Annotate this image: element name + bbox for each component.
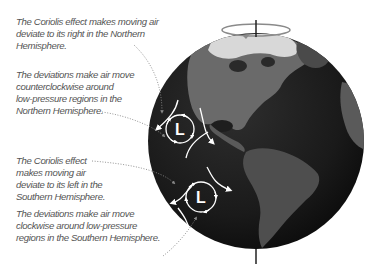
caption-line: The Coriolis effect	[16, 155, 105, 167]
caption-line: makes moving air	[16, 167, 105, 179]
caption-line: deviate to its left in the	[16, 179, 105, 191]
caption-line: The Coriolis effect makes moving air	[16, 16, 159, 28]
north-low-label: L	[175, 121, 185, 138]
caption-north-deviation: The deviations make air move countercloc…	[16, 69, 134, 117]
caption-line: counterclockwise around	[16, 81, 134, 93]
caption-south-deviation: The deviations make air move clockwise a…	[16, 208, 160, 244]
caption-line: The deviations make air move	[16, 208, 160, 220]
caption-line: Southern Hemisphere.	[16, 191, 105, 203]
caption-line: deviate to its right in the Northern	[16, 28, 159, 40]
south-low-label: L	[196, 189, 206, 206]
caption-line: The deviations make air move	[16, 69, 134, 81]
globe	[148, 33, 366, 249]
caption-line: regions in the Southern Hemisphere.	[16, 232, 160, 244]
caption-line: Northern Hemisphere.	[16, 105, 134, 117]
caption-line: Hemisphere.	[16, 40, 159, 52]
caption-south-coriolis: The Coriolis effect makes moving air dev…	[16, 155, 105, 203]
caption-line: clockwise around low-pressure	[16, 220, 160, 232]
caption-line: low-pressure regions in the	[16, 93, 134, 105]
caption-north-coriolis: The Coriolis effect makes moving air dev…	[16, 16, 159, 52]
